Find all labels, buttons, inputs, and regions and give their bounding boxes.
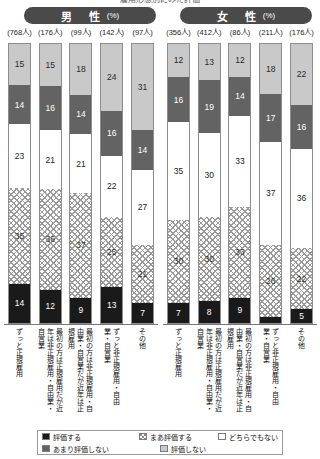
category-label: 最初の方は非正規雇用・自由業・自営業だが近年は正規雇用 — [67, 328, 94, 416]
segment-maa-hyouka: 25 — [101, 217, 122, 287]
segment-value-label: 15 — [44, 61, 55, 70]
stacked-bar[interactable]: 181421379 — [69, 43, 92, 324]
segment-amari-hyouka-shinai: 14 — [70, 95, 91, 134]
category-label-cell: 最初の方は正規雇用だが近年は非正規雇用・自由業・自営業 — [35, 328, 66, 416]
sample-size-label: (142人) — [96, 26, 127, 38]
bar-column: 1514233514 — [4, 43, 35, 324]
stacked-bar[interactable]: 121433339 — [228, 43, 251, 324]
segment-hyouka: 9 — [229, 298, 250, 323]
segment-value-label: 13 — [106, 301, 117, 310]
segment-amari-hyouka-shinai: 17 — [260, 94, 281, 141]
segment-hyouka-shinai: 15 — [9, 44, 30, 85]
sample-size-label: (99人) — [66, 26, 97, 38]
segment-dochira: 23 — [9, 124, 30, 188]
segment-hyouka: 7 — [132, 303, 153, 323]
segment-value-label: 14 — [14, 101, 25, 110]
legend-item-maa[interactable]: まあ評価する — [139, 432, 218, 442]
segment-value-label: 23 — [14, 152, 25, 161]
segment-value-label: 36 — [44, 235, 55, 244]
category-label: その他 — [138, 328, 147, 349]
legend-swatch-shinai-icon — [160, 445, 168, 452]
segment-value-label: 16 — [296, 123, 307, 132]
legend-swatch-maa-icon — [139, 433, 147, 440]
segment-amari-hyouka-shinai: 14 — [132, 130, 153, 169]
segment-dochira: 33 — [229, 116, 250, 207]
category-label: その他 — [297, 328, 306, 349]
stacked-bar[interactable]: 311427217 — [131, 43, 154, 324]
segment-hyouka-shinai: 13 — [199, 44, 220, 80]
segment-value-label: 21 — [44, 156, 55, 165]
panel-header-male: 男 性 (%) — [24, 7, 156, 24]
stacked-bar[interactable]: 131930308 — [198, 43, 221, 324]
segment-value-label: 30 — [203, 255, 214, 264]
segment-maa-hyouka: 30 — [168, 220, 189, 304]
legend-label: まあ評価する — [150, 432, 192, 442]
segment-hyouka: 13 — [101, 287, 122, 323]
segment-value-label: 31 — [137, 83, 148, 92]
sample-size-label: (211人) — [255, 26, 286, 38]
segment-dochira: 27 — [132, 170, 153, 245]
segment-amari-hyouka-shinai: 16 — [40, 86, 61, 131]
segment-maa-hyouka: 22 — [291, 248, 312, 309]
legend-row-bottom: あまり評価しない評価しない — [42, 444, 278, 454]
segment-value-label: 37 — [75, 241, 86, 250]
segment-hyouka-shinai: 15 — [40, 44, 61, 86]
segment-dochira: 21 — [40, 130, 61, 189]
category-label: ずっと非正規雇用・自由業・自営業 — [262, 328, 280, 416]
legend-item-shinai[interactable]: 評価しない — [160, 444, 256, 454]
chart-page: 雇用形態別にみた評価 男 性 (%) (768人)(176人)(99人)(142… — [0, 0, 320, 459]
segment-value-label: 26 — [265, 277, 276, 286]
segment-amari-hyouka-shinai: 16 — [291, 105, 312, 149]
legend-item-hyouka[interactable]: 評価する — [42, 432, 139, 442]
segment-value-label: 9 — [237, 306, 244, 315]
legend-swatch-dochira-icon — [218, 433, 226, 440]
segment-value-label: 12 — [44, 302, 55, 311]
panel-unit-label-female: (%) — [263, 11, 275, 20]
segment-value-label: 24 — [106, 73, 117, 82]
legend-item-dochira[interactable]: どちらでもない — [218, 432, 278, 442]
stacked-bar[interactable]: 221636225 — [290, 43, 313, 324]
segment-value-label: 18 — [75, 65, 86, 74]
legend-swatch-amari-icon — [42, 445, 50, 452]
segment-hyouka-shinai: 12 — [168, 44, 189, 77]
segment-value-label: 22 — [106, 182, 117, 191]
segment-hyouka-shinai: 24 — [101, 44, 122, 111]
panel-gender-label-male: 男 性 — [61, 8, 103, 24]
bar-column: 1516213612 — [35, 43, 66, 324]
legend-swatch-hyouka-icon — [42, 433, 50, 440]
stacked-bar[interactable]: 1516213612 — [39, 43, 62, 324]
category-label: ずっと正規雇用 — [15, 328, 24, 377]
stacked-bar[interactable]: 18173726 — [259, 43, 282, 324]
category-label-row-male: ずっと正規雇用最初の方は正規雇用だが近年は非正規雇用・自由業・自営業最初の方は非… — [4, 328, 158, 416]
bar-group-female: 1216353071319303081214333391817372622163… — [163, 43, 317, 324]
category-label: 最初の方は非正規雇用・自由業・自営業だが近年は正規雇用 — [226, 328, 253, 416]
stacked-bar[interactable]: 1514233514 — [8, 43, 31, 324]
segment-value-label: 9 — [78, 306, 85, 315]
segment-hyouka: 14 — [9, 284, 30, 323]
segment-value-label: 19 — [203, 103, 214, 112]
segment-hyouka — [260, 317, 281, 323]
sample-size-label: (768人) — [4, 26, 35, 38]
axis-baseline-female — [163, 324, 317, 325]
category-label-cell: その他 — [286, 328, 317, 416]
bar-column: 181421379 — [66, 43, 97, 324]
stacked-bar[interactable]: 121635307 — [167, 43, 190, 324]
sample-size-row-female: (356人)(412人)(86人)(211人)(176人) — [163, 26, 317, 38]
segment-dochira: 37 — [260, 142, 281, 245]
segment-hyouka-shinai: 18 — [70, 44, 91, 95]
segment-value-label: 7 — [139, 309, 146, 318]
bar-column: 121635307 — [163, 43, 194, 324]
segment-value-label: 12 — [173, 56, 184, 65]
segment-value-label: 14 — [137, 146, 148, 155]
category-label-cell: ずっと正規雇用 — [163, 328, 194, 416]
segment-value-label: 14 — [234, 92, 245, 101]
stacked-bar[interactable]: 2416222513 — [100, 43, 123, 324]
panel-header-female: 女 性 (%) — [180, 7, 312, 24]
segment-amari-hyouka-shinai: 14 — [9, 85, 30, 124]
segment-value-label: 5 — [298, 312, 305, 321]
segment-value-label: 30 — [173, 257, 184, 266]
segment-maa-hyouka: 36 — [40, 189, 61, 289]
legend-item-amari[interactable]: あまり評価しない — [42, 444, 160, 454]
segment-value-label: 37 — [265, 189, 276, 198]
bar-group-male: 1514233514151621361218142137924162225133… — [4, 43, 158, 324]
